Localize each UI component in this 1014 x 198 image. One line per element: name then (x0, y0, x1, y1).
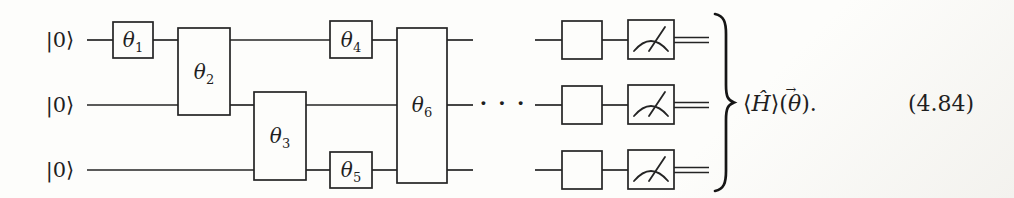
gate-theta-3: θ3 (254, 92, 306, 180)
qubit-label-1: |0⟩ (46, 28, 75, 53)
measurement-box-3 (628, 150, 674, 189)
qubit-label-3: |0⟩ (46, 158, 75, 183)
ellipsis: · · · (480, 90, 527, 115)
classical-double-wire-2 (674, 103, 709, 108)
curly-brace (715, 14, 734, 191)
unlabeled-gate-box-1 (562, 21, 602, 59)
measurement-2 (628, 85, 709, 124)
expectation-expression: ⟨Ĥ⟩(θ). (743, 90, 817, 116)
measurement-box-2 (628, 85, 674, 124)
gate-theta-2: θ2 (178, 28, 230, 115)
equation-number: (4.84) (908, 91, 974, 116)
vector-arrow: → (786, 82, 797, 97)
textbook-figure-page: |0⟩ |0⟩ |0⟩ θ1 θ2 θ3 (0, 0, 1014, 198)
quantum-circuit-figure: |0⟩ |0⟩ |0⟩ θ1 θ2 θ3 (0, 0, 1014, 198)
classical-double-wire-3 (674, 168, 709, 173)
measurement-box-1 (628, 20, 674, 59)
measurement-1 (628, 20, 709, 59)
classical-double-wire-1 (674, 38, 709, 43)
unlabeled-gate-box-3 (562, 151, 602, 189)
gate-theta-5: θ5 (330, 152, 372, 188)
qubit-label-2: |0⟩ (46, 93, 75, 118)
unlabeled-gate-box-2 (562, 86, 602, 124)
gate-theta-6: θ6 (397, 28, 447, 183)
measurement-3 (628, 150, 709, 189)
gate-theta-1: θ1 (113, 22, 153, 58)
gate-theta-4: θ4 (330, 21, 372, 58)
